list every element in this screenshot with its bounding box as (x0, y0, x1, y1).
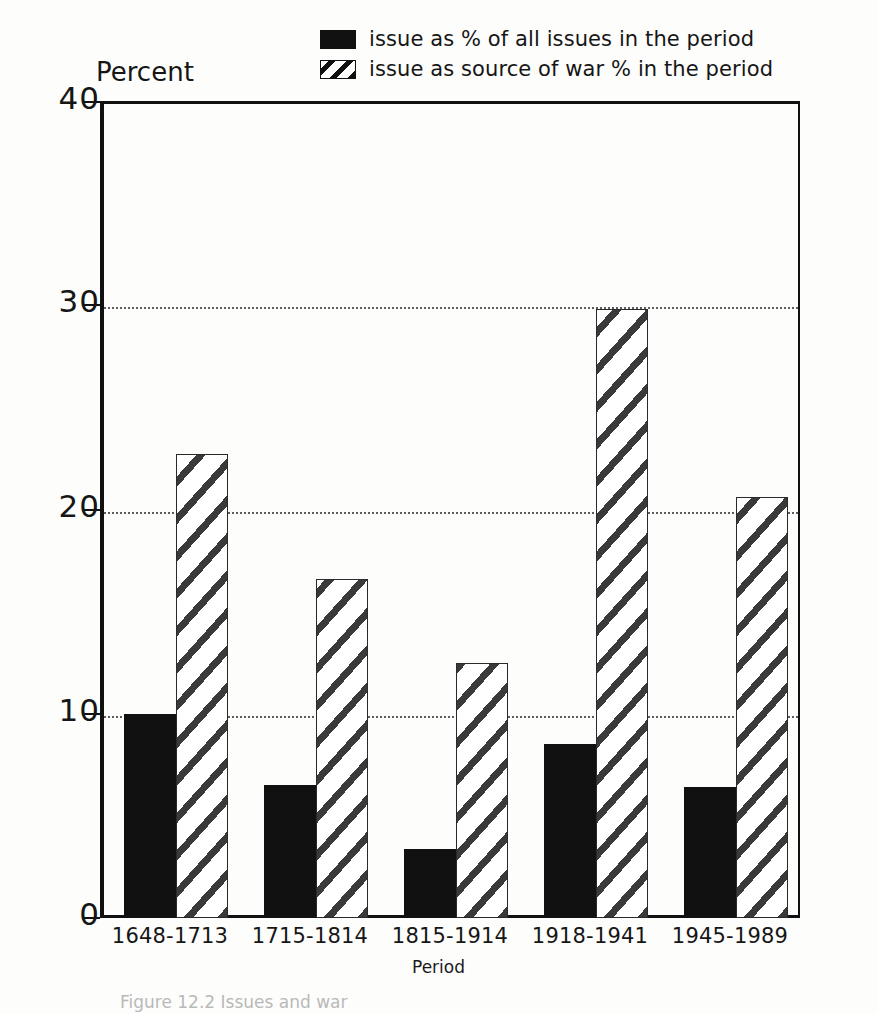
bar-series2-1918-1941 (596, 309, 648, 918)
legend-label-series2: issue as source of war % in the period (369, 57, 773, 81)
tick-label-20: 20 (26, 488, 100, 524)
y-axis: 40 30 20 10 0 (0, 0, 100, 1014)
bar-series2-1715-1814 (316, 579, 368, 918)
diagonal-hatch-swatch-icon (320, 60, 356, 79)
legend-label-series1: issue as % of all issues in the period (369, 27, 754, 51)
tick-label-0: 0 (26, 896, 100, 932)
chart-legend: issue as % of all issues in the period i… (320, 24, 840, 84)
tick-label-10: 10 (26, 692, 100, 728)
legend-entry-series2: issue as source of war % in the period (320, 54, 840, 84)
x-axis-labels: 1648-17131715-18141815-19141918-19411945… (100, 924, 800, 958)
bar-series1-1648-1713 (124, 714, 176, 918)
bar-series1-1815-1914 (404, 849, 456, 918)
bar-series2-1945-1989 (736, 497, 788, 918)
bar-series2-1815-1914 (456, 663, 508, 918)
bar-series1-1918-1941 (544, 744, 596, 918)
tick-label-40: 40 (26, 80, 100, 116)
chart-page: issue as % of all issues in the period i… (0, 0, 877, 1014)
bar-series1-1715-1814 (264, 785, 316, 918)
x-tick-label-1648-1713: 1648-1713 (100, 924, 240, 948)
bar-series1-1945-1989 (684, 787, 736, 918)
bars-layer (100, 101, 800, 918)
x-axis-title: Period (0, 957, 877, 977)
x-tick-label-1815-1914: 1815-1914 (380, 924, 520, 948)
bar-series2-1648-1713 (176, 454, 228, 918)
legend-entry-series1: issue as % of all issues in the period (320, 24, 840, 54)
x-tick-label-1918-1941: 1918-1941 (520, 924, 660, 948)
tick-label-30: 30 (26, 283, 100, 319)
y-axis-title: Percent (96, 57, 194, 87)
x-tick-label-1715-1814: 1715-1814 (240, 924, 380, 948)
figure-caption: Figure 12.2 Issues and war (120, 992, 347, 1012)
x-tick-label-1945-1989: 1945-1989 (660, 924, 800, 948)
solid-black-swatch-icon (320, 30, 356, 49)
